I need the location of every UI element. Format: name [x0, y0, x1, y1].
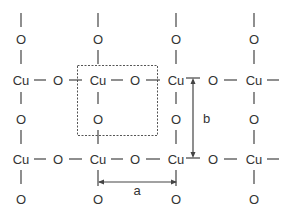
- copper-atom: Cu: [90, 73, 107, 88]
- oxygen-atom: O: [93, 112, 103, 127]
- oxygen-row-top: O O O O: [16, 32, 259, 47]
- copper-atom: Cu: [90, 152, 107, 167]
- lattice-parameter-a-arrow: a: [98, 180, 177, 199]
- oxygen-atom: O: [93, 32, 103, 47]
- copper-atom: Cu: [246, 73, 263, 88]
- oxygen-row-middle: O O O O: [16, 112, 259, 127]
- oxygen-atom: O: [249, 192, 259, 207]
- oxygen-atom: O: [208, 73, 218, 88]
- oxygen-atom: O: [208, 152, 218, 167]
- oxygen-atom: O: [53, 152, 63, 167]
- oxygen-atom: O: [16, 32, 26, 47]
- copper-atom: Cu: [246, 152, 263, 167]
- lattice-parameter-a-label: a: [133, 183, 141, 198]
- cuo2-lattice-diagram: O O O O Cu O Cu O Cu O Cu O O O O Cu O C…: [0, 0, 293, 215]
- oxygen-atom: O: [171, 32, 181, 47]
- copper-atom: Cu: [13, 152, 30, 167]
- oxygen-atom: O: [171, 192, 181, 207]
- oxygen-atom: O: [130, 73, 140, 88]
- oxygen-atom: O: [249, 32, 259, 47]
- copper-atom: Cu: [168, 73, 185, 88]
- oxygen-atom: O: [16, 192, 26, 207]
- lattice-parameter-b-arrow: b: [186, 78, 210, 158]
- horizontal-bonds: [34, 80, 279, 159]
- copper-atom: Cu: [13, 73, 30, 88]
- oxygen-atom: O: [16, 112, 26, 127]
- lattice-parameter-b-label: b: [203, 111, 210, 126]
- oxygen-atom: O: [93, 192, 103, 207]
- oxygen-atom: O: [130, 152, 140, 167]
- oxygen-atom: O: [249, 112, 259, 127]
- copper-atom: Cu: [168, 152, 185, 167]
- oxygen-atom: O: [171, 112, 181, 127]
- oxygen-atom: O: [53, 73, 63, 88]
